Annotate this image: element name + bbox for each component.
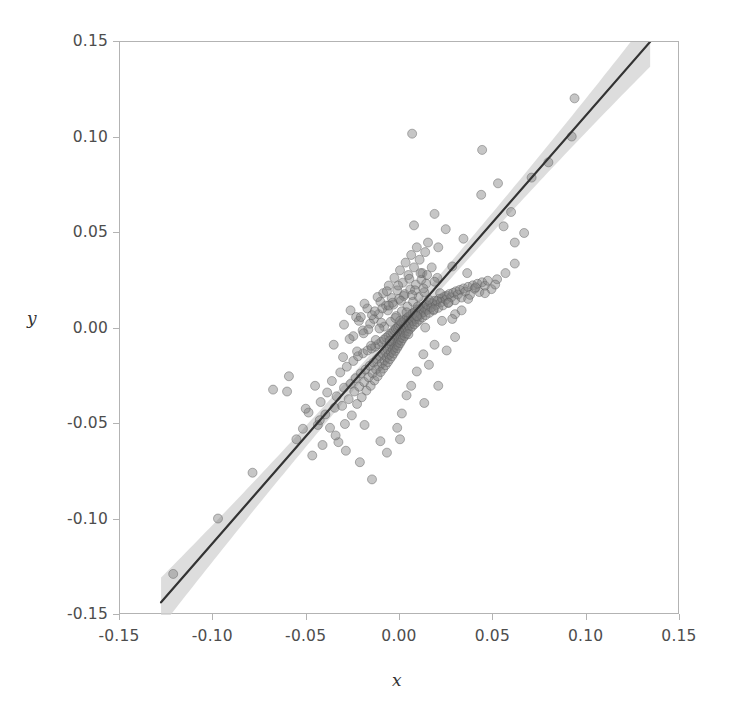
y-tick-label: 0.10 (73, 128, 108, 146)
y-tick-label: 0.05 (73, 223, 108, 241)
x-tick-label: 0.05 (475, 627, 510, 645)
y-tick-label: 0.00 (73, 319, 108, 337)
y-tick-label: -0.15 (67, 605, 108, 623)
x-tick-label: 0.00 (381, 627, 416, 645)
x-axis-title: x (392, 670, 402, 690)
y-tick-label: 0.15 (73, 32, 108, 50)
y-tick-label: -0.05 (67, 414, 108, 432)
x-tick-label: -0.10 (192, 627, 233, 645)
x-tick-label: -0.15 (98, 627, 139, 645)
x-tick-label: 0.15 (661, 627, 696, 645)
scatter-plot-canvas (120, 42, 680, 615)
plot-area (119, 41, 679, 614)
x-tick-label: 0.10 (568, 627, 603, 645)
y-axis-title: y (27, 308, 37, 328)
x-tick-label: -0.05 (285, 627, 326, 645)
figure-root: y x -0.15-0.10-0.050.000.050.100.15-0.15… (0, 0, 734, 712)
y-tick-label: -0.10 (67, 510, 108, 528)
